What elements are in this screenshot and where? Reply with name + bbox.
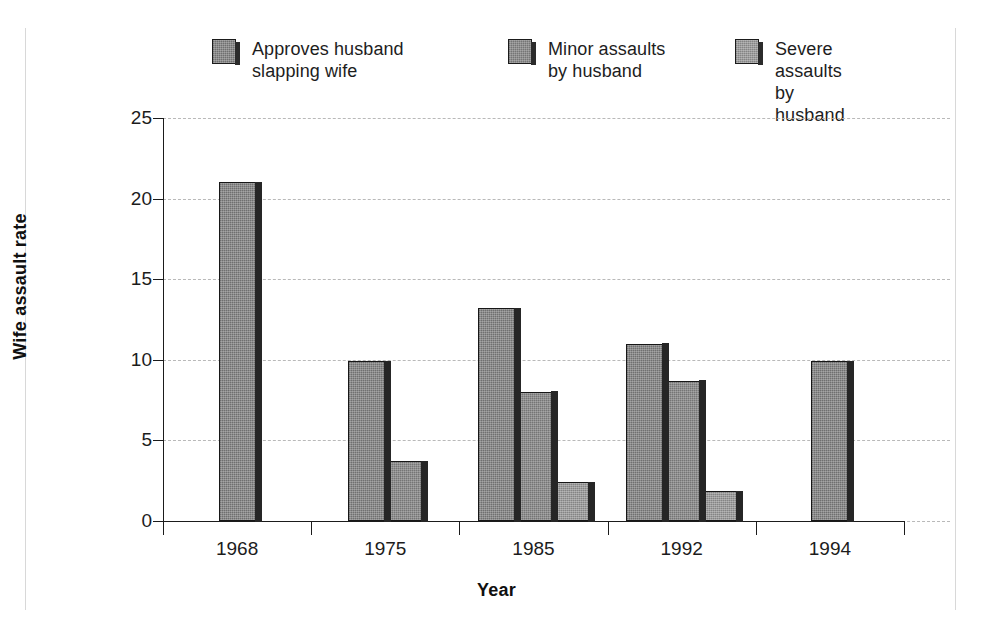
bar-texture <box>701 492 736 520</box>
x-axis-tick <box>608 521 609 535</box>
chart-plot-area: 2520151050 19681975198519921994 Year Wif… <box>0 0 993 632</box>
bar-series-container <box>163 118 904 521</box>
x-axis-tick-label: 1975 <box>364 538 406 560</box>
x-axis-tick-labels: 19681975198519921994 <box>163 538 904 568</box>
bar-texture <box>553 483 588 520</box>
y-axis-tick-label: 25 <box>131 107 152 129</box>
y-axis-title: Wife assault rate <box>10 157 31 417</box>
bar-1992-series-1 <box>626 344 663 521</box>
bar-1985-series-1 <box>478 308 515 521</box>
x-axis-tick-label: 1985 <box>512 538 554 560</box>
bar-texture <box>479 309 514 520</box>
bar-texture <box>664 382 699 520</box>
x-axis-tick-label: 1968 <box>216 538 258 560</box>
x-axis-tick-label: 1992 <box>661 538 703 560</box>
bar-1968-series-1 <box>219 182 256 521</box>
bar-texture <box>220 183 255 520</box>
bar-1994-series-1 <box>811 361 848 521</box>
x-axis-tick <box>459 521 460 535</box>
x-axis-tick <box>163 521 164 535</box>
y-axis-tick-label: 15 <box>131 268 152 290</box>
y-axis-tick-label: 0 <box>141 510 152 532</box>
bar-texture <box>812 362 847 520</box>
x-axis-tick <box>904 521 905 535</box>
bar-1975-series-1 <box>348 361 385 521</box>
x-axis-tick <box>311 521 312 535</box>
x-axis-ticks <box>163 521 904 535</box>
y-axis-tick-labels: 2520151050 <box>108 118 152 521</box>
bar-texture <box>349 362 384 520</box>
x-axis-title: Year <box>0 580 993 601</box>
bar-texture <box>386 462 421 520</box>
bar-texture <box>516 393 551 520</box>
x-axis-tick-label: 1994 <box>809 538 851 560</box>
x-axis-tick <box>756 521 757 535</box>
y-axis-tick-label: 5 <box>141 429 152 451</box>
y-axis-tick-label: 20 <box>131 188 152 210</box>
y-axis-tick-label: 10 <box>131 349 152 371</box>
bar-texture <box>627 345 662 520</box>
